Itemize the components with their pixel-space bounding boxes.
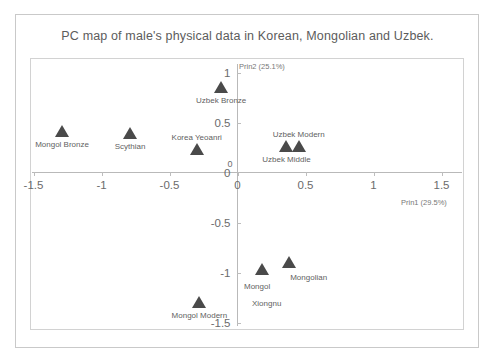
y-tick-mark	[237, 123, 241, 124]
x-tick-label: 1	[370, 179, 376, 191]
x-tick-mark	[102, 172, 103, 176]
y-tick-label: 1	[176, 67, 231, 79]
data-point-marker	[214, 81, 228, 93]
data-point-label: Uzbek Modern	[273, 129, 325, 140]
data-point-label: MongolXiongnu	[244, 281, 281, 309]
data-point-marker	[292, 140, 306, 152]
data-point-marker	[279, 140, 293, 152]
x-tick-label: -0.5	[160, 179, 180, 191]
data-point-label: Mongolian	[290, 272, 327, 283]
data-point-label: Uzbek Bronze	[196, 95, 246, 106]
x-tick-mark	[170, 172, 171, 176]
y-tick-label: 0	[176, 167, 231, 179]
data-point-marker	[190, 143, 204, 155]
x-axis-title: Prin1 (29.5%)	[401, 198, 447, 207]
data-point-marker	[255, 263, 269, 275]
chart-title: PC map of male's physical data in Korean…	[0, 29, 495, 43]
data-point-marker	[192, 296, 206, 308]
y-tick-mark	[237, 273, 241, 274]
data-point-marker	[55, 125, 69, 137]
data-point-label: Scythian	[115, 141, 146, 152]
data-point-label: Uzbek Middle	[262, 154, 310, 165]
x-tick-label: 0.5	[298, 179, 314, 191]
data-point-marker	[282, 256, 296, 268]
x-tick-label: -1.5	[24, 179, 44, 191]
x-tick-mark	[238, 172, 239, 176]
x-tick-mark	[374, 172, 375, 176]
x-tick-label: 1.5	[434, 179, 450, 191]
y-axis-title: Prin2 (25.1%)	[239, 62, 285, 71]
x-tick-label-origin: 0	[234, 179, 240, 191]
x-tick-label: -1	[96, 179, 106, 191]
data-point-label: Mongol Modern	[172, 310, 228, 321]
y-tick-mark	[237, 223, 241, 224]
x-tick-mark	[34, 172, 35, 176]
x-tick-mark	[306, 172, 307, 176]
y-tick-label: -1	[176, 267, 231, 279]
data-point-label: Korea Yeoanri	[172, 132, 222, 143]
x-tick-mark	[442, 172, 443, 176]
plot-area: Prin2 (25.1%) Prin1 (29.5%) -1.5-1-0.500…	[30, 58, 464, 330]
y-tick-label: -0.5	[176, 217, 231, 229]
y-tick-mark	[237, 323, 241, 324]
data-point-label: Mongol Bronze	[35, 139, 89, 150]
y-tick-mark	[237, 73, 241, 74]
data-point-marker	[123, 127, 137, 139]
y-tick-label: 0.5	[176, 117, 231, 129]
x-axis-line	[32, 172, 462, 173]
chart-screenshot: PC map of male's physical data in Korean…	[0, 0, 495, 362]
